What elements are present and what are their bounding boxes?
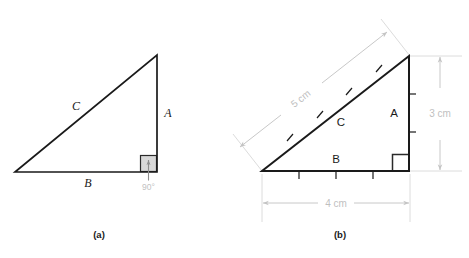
side-label-a-a: A bbox=[163, 106, 172, 120]
side-label-b-b: B bbox=[332, 153, 340, 165]
ext-line-diag-lower-b bbox=[233, 134, 262, 171]
panel-a: 90° C A B (a) bbox=[15, 55, 172, 240]
side-label-a-b: A bbox=[390, 107, 398, 119]
dim-line-diag-upper-b bbox=[322, 32, 387, 83]
side-label-c-b: C bbox=[337, 116, 345, 128]
side-label-c-a: C bbox=[72, 99, 81, 113]
geometry-figure: 90° C A B (a) 3 cm 4 cm bbox=[0, 0, 469, 258]
dimension-label-vertical-b: 3 cm bbox=[429, 108, 451, 119]
panel-b: 3 cm 4 cm 5 cm bbox=[233, 19, 462, 240]
panel-caption-a: (a) bbox=[93, 229, 105, 240]
dimension-horizontal-b: 4 cm bbox=[262, 174, 410, 222]
dimension-vertical-b: 3 cm bbox=[410, 56, 462, 171]
ext-line-diag-upper-b bbox=[381, 19, 410, 56]
side-label-b-a: B bbox=[84, 176, 92, 190]
panel-caption-b: (b) bbox=[334, 229, 346, 240]
dimension-label-hypotenuse-b: 5 cm bbox=[289, 88, 313, 110]
dimension-hypotenuse-b: 5 cm bbox=[233, 19, 410, 171]
tick-marks-vertical-b bbox=[409, 94, 416, 132]
right-angle-marker-b bbox=[393, 155, 410, 172]
right-angle-label-a: 90° bbox=[142, 182, 155, 192]
tick-marks-horizontal-b bbox=[299, 172, 373, 179]
triangle-outline-a bbox=[15, 55, 157, 172]
figure-root: 90° C A B (a) 3 cm 4 cm bbox=[0, 0, 469, 258]
dim-line-diag-lower-b bbox=[240, 115, 281, 147]
dimension-label-horizontal-b: 4 cm bbox=[325, 198, 347, 209]
